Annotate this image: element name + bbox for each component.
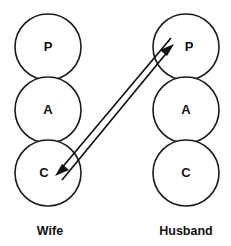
column-label-husband: Husband bbox=[159, 224, 212, 238]
column-wife: P A C bbox=[15, 14, 81, 206]
transactional-analysis-diagram: P A C P A C Wife Husband bbox=[0, 0, 231, 246]
column-label-wife: Wife bbox=[37, 224, 63, 238]
ego-state-letter-husband-parent: P bbox=[185, 39, 194, 54]
diagram-canvas: P A C P A C Wife Husband bbox=[0, 0, 231, 246]
ego-state-letter-wife-parent: P bbox=[44, 39, 53, 54]
ego-state-letter-wife-child: C bbox=[39, 165, 49, 180]
ego-state-letter-wife-adult: A bbox=[43, 102, 53, 117]
column-husband: P A C bbox=[153, 14, 219, 206]
ego-state-letter-husband-child: C bbox=[181, 165, 191, 180]
ego-state-letter-husband-adult: A bbox=[181, 102, 191, 117]
